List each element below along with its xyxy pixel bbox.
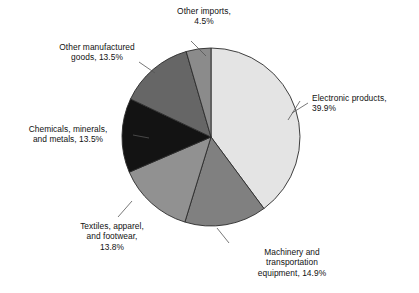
pie-label-other-manufactured-goods: Other manufactured goods, 13.5%: [28, 42, 166, 63]
pie-label-other-imports: Other imports, 4.5%: [143, 6, 265, 27]
leader-line-machinery: [217, 228, 229, 243]
pie-chart: Electronic products, 39.9% Machinery and…: [0, 0, 419, 293]
pie-label-machinery-and-transportation-equipment: Machinery and transportation equipment, …: [233, 247, 351, 278]
pie-label-textiles-apparel-and-footwear: Textiles, apparel, and footwear, 13.8%: [55, 221, 169, 252]
pie-label-chemicals-minerals-and-metals: Chemicals, minerals, and metals, 13.5%: [6, 124, 130, 145]
pie-label-electronic-products: Electronic products, 39.9%: [312, 93, 416, 114]
pie-slice-group: [122, 48, 300, 226]
leader-line-textiles: [118, 201, 132, 217]
leader-line-manufactured: [139, 62, 155, 73]
